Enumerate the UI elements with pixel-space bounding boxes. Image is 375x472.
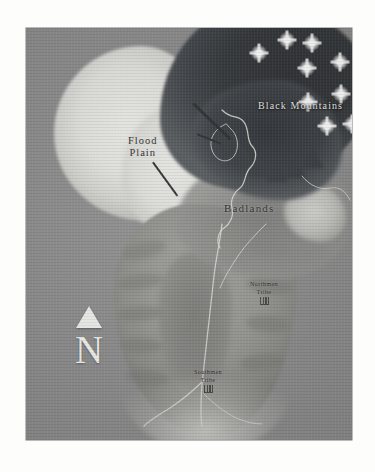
map-plate: Black Mountains Flood Plain Badlands Nor… bbox=[26, 28, 352, 440]
settlement-southmen-tribe[interactable]: Southmen Tribe bbox=[182, 368, 234, 393]
compass-rose: N bbox=[60, 306, 118, 394]
river-main bbox=[201, 224, 222, 426]
region-label-black-mountains: Black Mountains bbox=[258, 100, 343, 112]
page-background: Black Mountains Flood Plain Badlands Nor… bbox=[0, 0, 375, 472]
settlement-label: Northmen Tribe bbox=[250, 280, 278, 295]
settlement-label: Southmen Tribe bbox=[194, 368, 222, 383]
settlement-icon bbox=[260, 297, 269, 305]
compass-north-letter: N bbox=[60, 330, 118, 369]
region-label-flood-plain: Flood Plain bbox=[128, 135, 158, 160]
north-arrow-icon bbox=[76, 306, 102, 328]
region-label-badlands: Badlands bbox=[224, 202, 275, 215]
settlement-icon bbox=[204, 385, 213, 393]
river-branch-east bbox=[204, 394, 262, 424]
river-mountain-stream bbox=[302, 176, 350, 200]
river-tributary-east bbox=[220, 224, 266, 288]
settlement-northmen-tribe[interactable]: Northmen Tribe bbox=[238, 280, 290, 305]
